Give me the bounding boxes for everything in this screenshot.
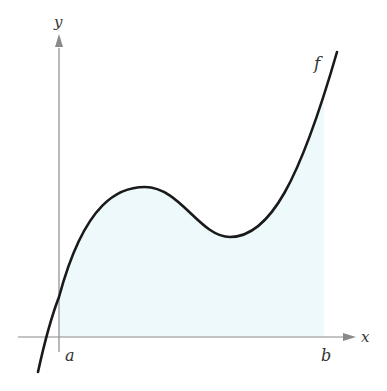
interval-end-label: b [321, 346, 331, 365]
x-axis-arrow-icon [343, 333, 356, 341]
function-label: f [312, 53, 323, 73]
y-axis-label: y [53, 13, 63, 31]
interval-start-label: a [65, 346, 75, 365]
y-axis-arrow-icon [55, 34, 63, 47]
shaded-region [59, 40, 324, 337]
x-axis-label: x [361, 328, 370, 346]
figure-canvas: y x f a b [0, 0, 387, 391]
